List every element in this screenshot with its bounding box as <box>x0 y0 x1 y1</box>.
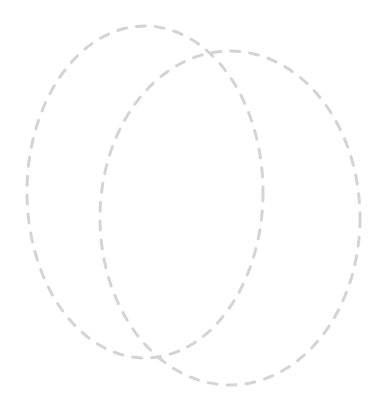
venn-diagram <box>0 0 388 413</box>
right-ellipse <box>100 51 360 385</box>
left-ellipse <box>27 26 263 358</box>
drawing-canvas <box>0 0 388 413</box>
